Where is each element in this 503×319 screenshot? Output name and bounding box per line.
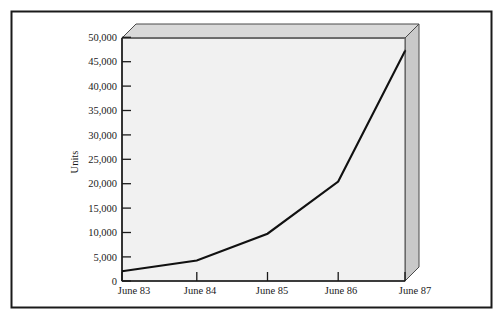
plot-top-face: [122, 24, 419, 38]
y-tick-label: 35,000: [88, 105, 117, 116]
line-chart-svg: 50,000 45,000 40,000 35,000 30,000 25,00…: [0, 0, 503, 319]
plot-right-face: [405, 24, 419, 281]
y-tick-label: 15,000: [88, 203, 117, 214]
y-tick-label: 50,000: [88, 32, 117, 43]
chart-figure: 50,000 45,000 40,000 35,000 30,000 25,00…: [0, 0, 503, 319]
x-tick-label: June 84: [184, 285, 217, 296]
x-tick-label: June 87: [399, 285, 431, 296]
y-tick-label: 5,000: [93, 252, 117, 263]
y-tick-label: 20,000: [88, 178, 117, 189]
y-tick-label: 40,000: [88, 81, 117, 92]
y-tick-label: 10,000: [88, 227, 117, 238]
data-series-endpoint: [405, 50, 406, 51]
y-tick-label: 0: [112, 276, 117, 287]
x-tick-label: June 85: [256, 285, 288, 296]
y-tick-label: 45,000: [88, 56, 117, 67]
x-tick-label: June 86: [325, 285, 357, 296]
x-tick-label: June 83: [118, 285, 150, 296]
y-tick-label: 30,000: [88, 130, 117, 141]
y-axis-title: Units: [69, 151, 80, 174]
plot-front-face: [122, 38, 405, 281]
y-tick-label: 25,000: [88, 154, 117, 165]
